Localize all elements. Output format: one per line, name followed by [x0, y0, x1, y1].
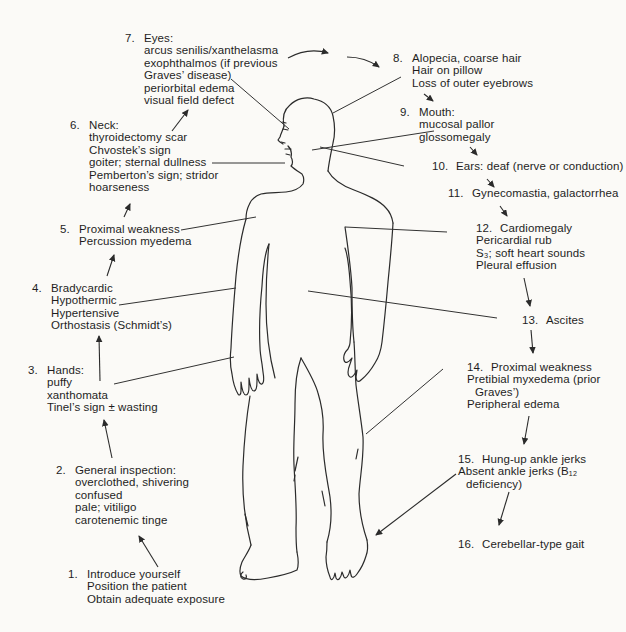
step-10: 10.Ears: deaf (nerve or conduction): [408, 160, 623, 172]
step-number: 12.: [476, 222, 500, 234]
step-title: Cardiomegaly: [500, 222, 572, 234]
arrow-13-to-14: [531, 330, 533, 353]
step-8: 8.Alopecia, coarse hair Hair on pillow L…: [393, 52, 533, 89]
step-line: Orthostasis (Schmidt’s): [32, 319, 172, 331]
step-line: Absent ankle jerks (B₁₂: [434, 465, 586, 477]
left-foot: [240, 545, 298, 580]
step-number: 4.: [32, 282, 51, 294]
left-torso-edge: [266, 244, 275, 378]
nape-right-shoulder: [328, 171, 393, 223]
step-line: 5.Proximal weakness: [60, 223, 191, 235]
step-title: General inspection:: [75, 464, 176, 476]
step-title: Neck:: [89, 119, 119, 131]
step-line: 4.Bradycardic: [32, 282, 172, 294]
step-line: thyroidectomy scar: [70, 131, 218, 143]
step-line: Pleural effusion: [452, 259, 585, 271]
step-line: glossomegaly: [400, 131, 495, 143]
step-11: 11.Gynecomastia, galactorrhea: [424, 187, 618, 199]
step-line: Hypothermic: [32, 294, 172, 306]
step-number: 15.: [458, 453, 482, 465]
step-line: 2.General inspection:: [56, 464, 189, 476]
right-foot: [326, 540, 368, 580]
chin-neck-left-shoulder: [246, 146, 304, 219]
connector-pretibial: [366, 369, 443, 434]
step-line: 14.Proximal weakness: [443, 361, 601, 373]
step-title: Proximal weakness: [491, 361, 592, 373]
step-4: 4.Bradycardic Hypothermic Hypertensive O…: [32, 282, 172, 332]
connector-heart: [345, 227, 447, 232]
step-line: Peripheral edema: [443, 398, 601, 410]
left-leg-inner: [294, 358, 301, 552]
step-line: 1.Introduce yourself: [68, 568, 225, 580]
head-outline: [283, 98, 334, 171]
eye-mark: [283, 129, 288, 130]
right-torso-edge: [345, 227, 354, 342]
step-line: visual field defect: [125, 94, 278, 106]
step-number: 10.: [432, 160, 456, 172]
step-title: Bradycardic: [51, 282, 113, 294]
step-line: puffy: [28, 376, 158, 388]
step-title: Mouth:: [419, 106, 455, 118]
step-line: arcus senilis/xanthelasma: [125, 44, 278, 56]
arrow-4-to-5: [107, 255, 114, 276]
step-12: 12.Cardiomegaly Pericardial rub S₃; soft…: [452, 222, 585, 272]
step-line: 12.Cardiomegaly: [452, 222, 585, 234]
step-line: Hypertensive: [32, 307, 172, 319]
step-line: pale; vitiligo: [56, 501, 189, 513]
step-title: Hands:: [47, 364, 84, 376]
step-line: Percussion myedema: [60, 235, 191, 247]
step-title: Cerebellar-type gait: [482, 538, 584, 550]
step-line: Obtain adequate exposure: [68, 593, 225, 605]
step-13: 13.Ascites: [498, 314, 584, 326]
arrow-10-to-11: [487, 179, 494, 187]
step-number: 16.: [458, 538, 482, 550]
step-number: 5.: [60, 223, 79, 235]
arrow-8-to-9: [424, 94, 433, 101]
step-line: xanthomata: [28, 389, 158, 401]
step-7: 7.Eyes: arcus senilis/xanthelasma exopht…: [125, 32, 278, 106]
step-6: 6.Neck: thyroidectomy scar Chvostek’s si…: [70, 119, 218, 193]
step-5: 5.Proximal weakness Percussion myedema: [60, 223, 191, 248]
arrow-7-to-8-a: [288, 51, 328, 58]
step-line: 9.Mouth:: [400, 106, 495, 118]
left-arm-and-hand: [230, 219, 269, 395]
human-body-outline: [230, 98, 393, 580]
step-line: 16.Cerebellar-type gait: [434, 538, 584, 550]
step-line: 11.Gynecomastia, galactorrhea: [424, 187, 618, 199]
step-number: 7.: [125, 32, 144, 44]
step-line: 6.Neck:: [70, 119, 218, 131]
step-number: 1.: [68, 568, 87, 580]
step-line: deficiency): [434, 478, 586, 490]
step-line: 10.Ears: deaf (nerve or conduction): [408, 160, 623, 172]
step-line: 3.Hands:: [28, 364, 158, 376]
arrow-9-to-10: [470, 147, 477, 155]
step-3: 3.Hands: puffy xanthomata Tinel’s sign ±…: [28, 364, 158, 414]
step-9: 9.Mouth: mucosal pallor glossomegaly: [400, 106, 495, 143]
step-line: Graves’ disease): [125, 69, 278, 81]
step-line: 13.Ascites: [498, 314, 584, 326]
step-number: 13.: [522, 314, 546, 326]
step-2: 2.General inspection: overclothed, shive…: [56, 464, 189, 526]
step-title: Introduce yourself: [87, 568, 180, 580]
step-line: Tinel’s sign ± wasting: [28, 401, 158, 413]
step-line: Pretibial myxedema (prior: [443, 373, 601, 385]
step-line: Hair on pillow: [393, 64, 533, 76]
step-number: 6.: [70, 119, 89, 131]
arrow-11-to-12: [500, 206, 507, 216]
step-1: 1.Introduce yourself Position the patien…: [68, 568, 225, 605]
step-15: 15.Hung-up ankle jerks Absent ankle jerk…: [434, 453, 586, 490]
leg-detail-strokes: [245, 449, 358, 526]
step-line: hoarseness: [70, 181, 218, 193]
step-title: Proximal weakness: [79, 223, 180, 235]
step-title: Ascites: [546, 314, 584, 326]
arrow-7-to-8-b: [347, 57, 379, 67]
step-line: 7.Eyes:: [125, 32, 278, 44]
step-line: Position the patient: [68, 580, 225, 592]
step-line: Pericardial rub: [452, 234, 585, 246]
step-line: Graves’): [443, 386, 601, 398]
step-line: Pemberton’s sign; stridor: [70, 169, 218, 181]
arrow-12-to-13: [524, 278, 530, 306]
step-line: overclothed, shivering: [56, 476, 189, 488]
connector-ears: [320, 147, 404, 166]
step-line: 15.Hung-up ankle jerks: [434, 453, 586, 465]
